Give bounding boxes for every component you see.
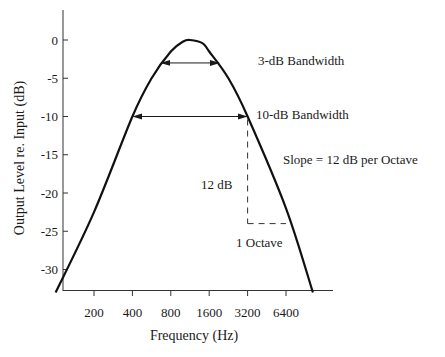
label-12db: 12 dB <box>201 177 233 192</box>
x-axis-title: Frequency (Hz) <box>150 328 239 344</box>
y-tick-label: -30 <box>41 262 58 277</box>
y-tick-label: -15 <box>41 147 58 162</box>
label-1-octave: 1 Octave <box>236 235 283 250</box>
y-tick-label: -5 <box>47 71 58 86</box>
label-slope: Slope = 12 dB per Octave <box>283 152 418 167</box>
x-tick-label: 200 <box>84 305 104 320</box>
label-3db-bandwidth: 3-dB Bandwidth <box>258 53 345 68</box>
x-tick-label: 3200 <box>235 305 261 320</box>
response-curve <box>56 40 313 293</box>
x-tick-label: 1600 <box>196 305 222 320</box>
x-tick-label: 6400 <box>273 305 299 320</box>
x-tick-label: 800 <box>161 305 181 320</box>
y-tick-label: -10 <box>41 109 58 124</box>
y-tick-label: 0 <box>52 33 59 48</box>
y-axis-title: Output Level re. Input (dB) <box>12 80 28 235</box>
y-tick-label: -20 <box>41 186 58 201</box>
label-10db-bandwidth: 10-dB Bandwidth <box>256 107 349 122</box>
chart: 0-5-10-15-20-25-30 200400800160032006400… <box>0 0 445 357</box>
x-tick-label: 400 <box>123 305 143 320</box>
y-tick-label: -25 <box>41 224 58 239</box>
